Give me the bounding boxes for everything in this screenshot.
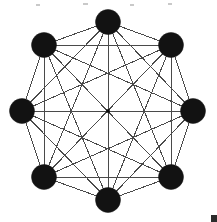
- complete-graph-k8: [0, 0, 217, 222]
- center-marker-layer: [106, 109, 110, 113]
- graph-vertex-v0: [96, 10, 121, 35]
- graph-vertex-v1: [159, 33, 184, 58]
- graph-vertex-v7: [32, 33, 57, 58]
- graph-vertex-v3: [159, 165, 184, 190]
- scan-speck: [83, 3, 88, 5]
- scan-speck: [168, 3, 172, 5]
- center-marker-dot: [106, 109, 110, 113]
- corner-speck: [211, 215, 217, 222]
- scan-speck: [36, 4, 40, 6]
- figure-canvas: [0, 0, 217, 222]
- graph-vertex-v4: [96, 188, 121, 213]
- graph-vertex-v6: [10, 99, 35, 124]
- graph-vertex-v2: [181, 99, 206, 124]
- scan-speck: [130, 4, 134, 6]
- graph-vertex-v5: [32, 165, 57, 190]
